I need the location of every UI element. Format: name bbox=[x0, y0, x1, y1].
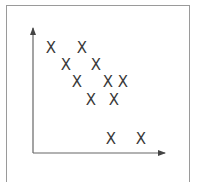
x-marker-icon: X bbox=[86, 91, 96, 109]
data-points: XXXXXXXXXXX bbox=[46, 39, 146, 148]
scatter-plot: XXXXXXXXXXX bbox=[0, 0, 198, 182]
x-marker-icon: X bbox=[91, 56, 101, 74]
x-marker-icon: X bbox=[72, 73, 82, 91]
x-marker-icon: X bbox=[106, 130, 116, 148]
x-marker-icon: X bbox=[136, 130, 146, 148]
x-marker-icon: X bbox=[103, 73, 113, 91]
x-marker-icon: X bbox=[77, 39, 87, 57]
x-marker-icon: X bbox=[109, 91, 119, 109]
x-marker-icon: X bbox=[46, 39, 56, 57]
x-marker-icon: X bbox=[118, 73, 128, 91]
x-marker-icon: X bbox=[61, 56, 71, 74]
